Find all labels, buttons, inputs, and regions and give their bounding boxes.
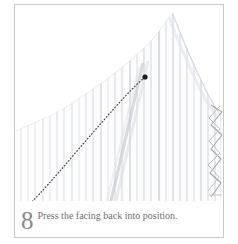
caption-text: Press the facing back into position. [34,201,178,222]
fabric-illustration [15,5,223,201]
caption-row: 8 Press the facing back into position. [15,201,223,237]
illustration-area [15,5,223,201]
step-number: 8 [15,201,34,233]
instruction-figure-panel: 8 Press the facing back into position. [14,4,224,238]
arrow-tip-dot [142,74,147,79]
